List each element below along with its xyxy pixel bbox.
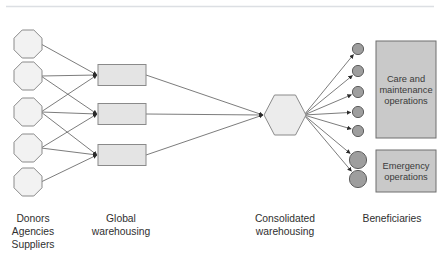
beneficiary-large-circle-0 xyxy=(349,151,366,168)
edge-source-1-to-global-1 xyxy=(41,76,97,114)
consolidated-warehouse-hexagon xyxy=(264,95,306,135)
operation-box-label-care-and-maintenance-1: maintenance xyxy=(379,85,432,95)
edges-global-to-consolidated xyxy=(146,75,263,155)
beneficiary-small-circle-0 xyxy=(352,43,363,54)
edge-global-2-to-consolidated xyxy=(146,115,263,155)
beneficiary-small-circle-4 xyxy=(352,125,363,136)
edge-source-3-to-global-1 xyxy=(41,114,97,148)
operation-box-emergency xyxy=(376,150,436,192)
beneficiary-circle-group xyxy=(349,43,366,187)
beneficiary-small-circle-3 xyxy=(352,106,363,117)
operation-box-label-emergency-0: Emergency xyxy=(382,161,429,171)
diagram-canvas: Care andmaintenanceoperationsEmergencyop… xyxy=(0,0,441,266)
global-warehouse-0 xyxy=(98,65,146,86)
beneficiary-large-circle-1 xyxy=(349,170,366,187)
column-label-sources-1: Agencies xyxy=(12,226,54,237)
column-label-global-0: Global xyxy=(106,213,136,224)
edge-consolidated-to-small-circle-3 xyxy=(304,112,351,115)
supply-chain-diagram: Care andmaintenanceoperationsEmergencyop… xyxy=(0,0,441,266)
edge-source-4-to-global-2 xyxy=(41,155,97,182)
column-label-group: DonorsAgenciesSuppliersGlobalwarehousing… xyxy=(12,213,422,250)
global-warehouse-2 xyxy=(98,145,146,166)
edge-source-2-to-global-1 xyxy=(41,112,97,114)
column-label-sources-2: Suppliers xyxy=(12,239,55,250)
column-label-consolidated-0: Consolidated xyxy=(255,213,315,224)
edge-source-1-to-global-0 xyxy=(41,75,97,76)
beneficiary-small-circle-1 xyxy=(352,65,363,76)
operation-box-label-care-and-maintenance-2: operations xyxy=(384,96,428,106)
column-label-beneficiaries-0: Beneficiaries xyxy=(363,213,422,224)
edge-source-2-to-global-2 xyxy=(41,112,97,155)
edges-consolidated-to-beneficiaries xyxy=(304,54,354,171)
source-octagon-group xyxy=(14,30,42,196)
source-octagon-2 xyxy=(14,98,42,126)
global-warehouse-1 xyxy=(98,104,146,125)
operation-box-label-emergency-1: operations xyxy=(384,172,428,182)
edge-source-0-to-global-0 xyxy=(41,44,97,75)
edge-global-1-to-consolidated xyxy=(146,114,263,115)
column-label-global-1: warehousing xyxy=(91,226,151,237)
edge-consolidated-to-large-circle-1 xyxy=(304,115,351,171)
source-octagon-0 xyxy=(14,30,42,58)
global-warehouse-group xyxy=(98,65,146,166)
edge-consolidated-to-small-circle-0 xyxy=(304,54,354,115)
source-octagon-4 xyxy=(14,168,42,196)
column-label-consolidated-1: warehousing xyxy=(255,226,315,237)
beneficiary-small-circle-2 xyxy=(352,86,363,97)
edges-sources-to-global xyxy=(41,44,97,182)
operation-box-label-care-and-maintenance-0: Care and xyxy=(387,74,425,84)
edge-global-0-to-consolidated xyxy=(146,75,263,115)
edge-consolidated-to-small-circle-1 xyxy=(304,75,352,115)
column-label-sources-0: Donors xyxy=(16,213,49,224)
consolidated-warehouse-group xyxy=(264,95,306,135)
edge-source-2-to-global-0 xyxy=(41,75,97,112)
edge-consolidated-to-large-circle-0 xyxy=(304,115,350,154)
edge-consolidated-to-small-circle-2 xyxy=(304,95,351,115)
edge-consolidated-to-small-circle-4 xyxy=(304,115,351,129)
source-octagon-1 xyxy=(14,62,42,90)
source-octagon-3 xyxy=(14,134,42,162)
